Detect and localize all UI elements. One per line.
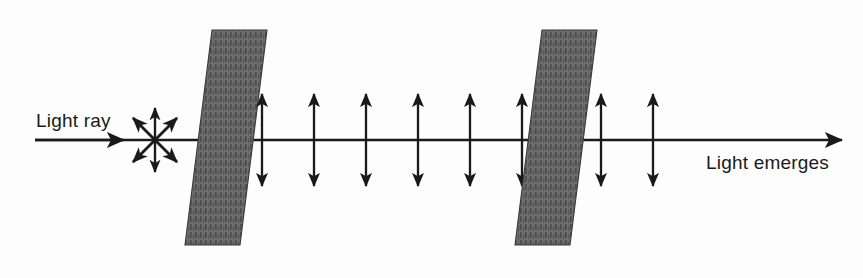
polarizing-filter-1 <box>185 30 267 245</box>
polarization-diagram <box>0 0 863 278</box>
burst-ray-down-left <box>133 140 155 162</box>
label-light-ray: Light ray <box>36 110 111 132</box>
label-light-emerges: Light emerges <box>706 152 829 174</box>
filter-2-plate <box>515 30 597 245</box>
burst-ray-up-right <box>155 118 177 140</box>
burst-ray-up-left <box>133 118 155 140</box>
burst-ray-down-right <box>155 140 177 162</box>
figure-canvas: Light ray Light emerges <box>0 0 863 278</box>
filter-1-plate <box>185 30 267 245</box>
polarizing-filter-2 <box>515 30 597 245</box>
